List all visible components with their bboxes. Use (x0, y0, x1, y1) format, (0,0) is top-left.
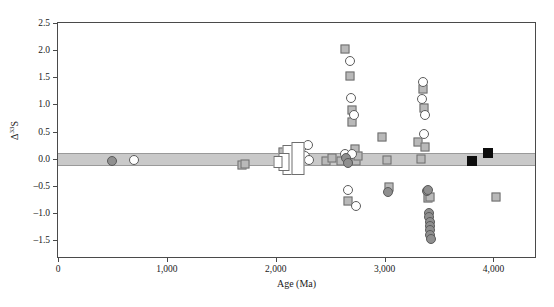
data-point-gray-square (241, 160, 250, 169)
data-point-gray-circle (107, 156, 117, 166)
y-axis-tick (53, 240, 58, 241)
data-point-gray-circle (426, 234, 436, 244)
y-axis-tick (53, 50, 58, 51)
y-axis-label-element: S (9, 121, 20, 127)
y-axis-tick (53, 132, 58, 133)
data-point-open-circle (343, 185, 353, 195)
data-point-open-circle (419, 129, 429, 139)
y-axis-tick-label: 2.0 (38, 45, 50, 55)
y-axis-tick-label: –1.0 (33, 208, 50, 218)
y-axis-tick-label: –0.5 (33, 181, 50, 191)
y-axis-tick-label: 1.5 (38, 72, 50, 82)
x-axis-tick-label: 0 (56, 264, 61, 274)
x-axis-tick (167, 257, 168, 262)
x-axis-tick (385, 257, 386, 262)
y-axis-tick-label: 2.5 (38, 18, 50, 28)
data-point-gray-square (328, 153, 337, 162)
y-axis-tick-label: –1.5 (33, 235, 50, 245)
y-axis-tick (53, 159, 58, 160)
x-axis-tick (276, 257, 277, 262)
y-axis-tick-label: 1.0 (38, 99, 50, 109)
data-point-black-square (483, 148, 493, 158)
data-point-gray-square (378, 132, 387, 141)
y-axis-tick-label: 0.0 (38, 154, 50, 164)
data-point-gray-circle (383, 187, 393, 197)
data-point-gray-square (420, 142, 429, 151)
data-range-bar (291, 142, 304, 175)
data-point-open-circle (420, 110, 430, 120)
data-point-gray-square (491, 192, 500, 201)
data-point-open-circle (129, 155, 139, 165)
y-axis-tick (53, 213, 58, 214)
data-point-open-circle (418, 77, 428, 87)
data-point-gray-square (345, 72, 354, 81)
data-point-open-circle (304, 155, 314, 165)
data-point-gray-square (382, 156, 391, 165)
x-axis-label: Age (Ma) (57, 278, 536, 289)
data-point-gray-circle (343, 158, 353, 168)
x-axis-tick-label: 4,000 (483, 264, 504, 274)
y-axis-tick (53, 23, 58, 24)
data-point-gray-circle (423, 185, 433, 195)
data-range-bar (273, 156, 282, 168)
figure-container: –1.5–1.0–0.50.00.51.01.52.02.5 01,0002,0… (0, 0, 554, 307)
data-point-gray-square (341, 45, 350, 54)
y-axis-tick (53, 77, 58, 78)
y-axis-label-delta: Δ (9, 134, 20, 140)
data-point-open-circle (417, 94, 427, 104)
y-axis-tick-label: 0.5 (38, 127, 50, 137)
data-point-open-circle (303, 140, 313, 150)
data-point-open-circle (349, 110, 359, 120)
x-axis-tick (493, 257, 494, 262)
x-axis-tick-label: 3,000 (374, 264, 395, 274)
data-point-open-circle (345, 56, 355, 66)
data-point-gray-square (416, 154, 425, 163)
y-axis-label: Δ33S (8, 121, 20, 140)
data-point-open-circle (351, 201, 361, 211)
x-axis-tick-label: 2,000 (265, 264, 286, 274)
x-axis-tick-label: 1,000 (156, 264, 177, 274)
plot-area: –1.5–1.0–0.50.00.51.01.52.02.5 01,0002,0… (57, 22, 536, 258)
data-point-black-square (467, 156, 477, 166)
y-axis-tick (53, 186, 58, 187)
y-axis-tick (53, 104, 58, 105)
x-axis-tick (58, 257, 59, 262)
data-point-open-circle (346, 93, 356, 103)
y-axis-label-superscript: 33 (8, 127, 16, 134)
